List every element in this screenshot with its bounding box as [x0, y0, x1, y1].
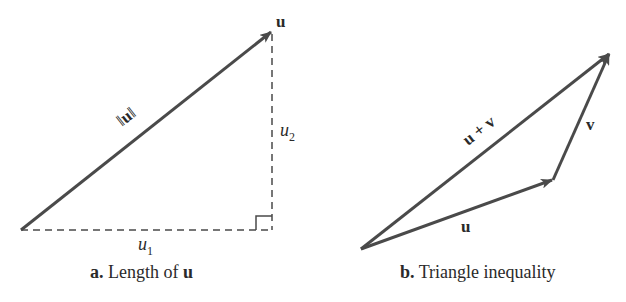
caption-b: b. Triangle inequality	[400, 262, 556, 282]
caption-a: a. Length of u	[90, 262, 193, 282]
vector-u-plus-v-arrow	[361, 54, 609, 249]
u2-label: u2	[280, 120, 295, 144]
vector-u-arrow	[21, 32, 271, 230]
vector-u-arrow	[361, 180, 552, 249]
panel-a-length: u ‖u‖ u2 u1 a. Length of u	[21, 12, 295, 282]
u1-label: u1	[138, 234, 153, 258]
vector-u-tip-label: u	[276, 12, 285, 31]
vector-v-arrow	[553, 54, 609, 180]
v-label: v	[586, 115, 595, 134]
norm-u-label: ‖u‖	[113, 103, 140, 130]
u-label: u	[461, 217, 470, 236]
right-angle-marker	[256, 216, 272, 230]
panel-b-triangle-inequality: u v u + v b. Triangle inequality	[361, 54, 609, 282]
vector-diagram: u ‖u‖ u2 u1 a. Length of u u v u + v b. …	[0, 0, 626, 302]
